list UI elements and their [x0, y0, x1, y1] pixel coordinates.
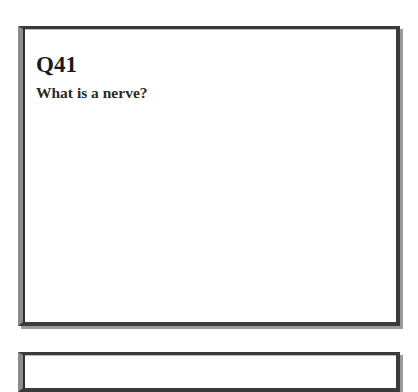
flashcard-q41: Q41 What is a nerve?: [18, 26, 400, 326]
flashcard-next-partial: [18, 352, 400, 392]
question-number: Q41: [36, 53, 77, 76]
question-text: What is a nerve?: [36, 85, 148, 101]
